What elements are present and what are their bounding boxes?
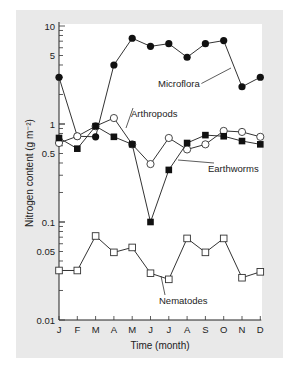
earthworms-point [239,138,246,145]
nematodes-point [202,249,209,256]
x-tick-label: S [202,324,208,335]
arthropods-point [165,134,172,141]
microflora-point [55,74,62,81]
y-axis-title: Nitrogen content (g m⁻²) [24,119,35,227]
x-tick-label: M [128,324,136,335]
y-tick-label: 5 [50,50,55,61]
earthworms-point [129,141,136,148]
earthworms-point [220,133,227,140]
earthworms-point [166,167,173,174]
arthropods-point [238,128,245,135]
x-tick-label: D [257,324,264,335]
earthworms-label: Earthworms [208,163,259,174]
microflora-point [165,40,172,47]
nematodes-point [129,244,136,251]
arthropods-label: Arthropods [131,108,178,119]
arthropods-point [74,133,81,140]
y-tick-label: 1 [50,119,55,130]
earthworms-point [56,135,63,142]
microflora-point [92,133,99,140]
y-tick-label: 0.05 [37,246,56,257]
nitrogen-chart: 10510.50.10.050.01JFMAMJJASOND Microflor… [0,0,297,377]
nematodes-point [220,235,227,242]
earthworms-point [147,219,154,226]
x-tick-label: N [239,324,246,335]
nematodes-point [74,267,81,274]
microflora-point [257,74,264,81]
earthworms-point [184,140,191,147]
microflora-point [238,83,245,90]
x-tick-label: O [220,324,227,335]
arthropods-point [202,141,209,148]
earthworms-point [111,134,118,141]
nematodes-point [257,269,264,276]
x-tick-label: J [166,324,171,335]
microflora-point [129,35,136,42]
x-tick-label: A [184,324,191,335]
x-tick-label: J [148,324,153,335]
x-tick-label: J [57,324,62,335]
earthworms-point [92,123,99,130]
microflora-point [110,61,117,68]
arthropods-point [257,133,264,140]
nematodes-point [166,276,173,283]
nematodes-label: Nematodes [159,295,208,306]
earthworms-point [202,132,209,139]
microflora-label: Microflora [158,78,200,89]
nematodes-point [184,235,191,242]
nematodes-point [56,267,63,274]
y-tick-label: 0.5 [42,148,55,159]
earthworms-point [74,145,81,152]
nematodes-point [111,249,118,256]
nematodes-point [147,270,154,277]
x-tick-label: A [111,324,118,335]
nematodes-point [92,233,99,240]
microflora-point [220,37,227,44]
y-tick-label: 0.1 [42,217,55,228]
arthropods-point [110,114,117,121]
x-axis-title: Time (month) [130,340,189,351]
microflora-point [202,40,209,47]
x-tick-label: F [74,324,80,335]
x-tick-label: M [92,324,100,335]
nematodes-point [239,274,246,281]
microflora-point [147,43,154,50]
earthworms-point [257,141,264,148]
y-tick-label: 0.01 [37,315,56,326]
arthropods-point [147,160,154,167]
y-tick-label: 10 [44,21,55,32]
microflora-point [184,54,191,61]
